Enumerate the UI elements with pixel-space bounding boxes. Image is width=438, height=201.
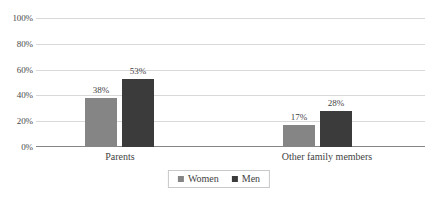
legend-label-women: Women bbox=[188, 173, 219, 184]
bar-parents-women bbox=[85, 98, 117, 147]
y-tick-label-20: 20% bbox=[0, 117, 33, 126]
y-tick-label-60: 60% bbox=[0, 66, 33, 75]
gridline-40 bbox=[36, 95, 425, 96]
gridline-60 bbox=[36, 70, 425, 71]
bar-other-men bbox=[320, 111, 352, 147]
legend-label-men: Men bbox=[242, 173, 260, 184]
bar-other-women bbox=[283, 125, 315, 147]
y-tick-label-100: 100% bbox=[0, 14, 33, 23]
bar-chart: 100% 80% 60% 40% 20% 0% 38% 53% 17% 28% … bbox=[0, 0, 438, 201]
value-label-other-women: 17% bbox=[282, 113, 316, 122]
y-tick-label-80: 80% bbox=[0, 40, 33, 49]
legend-item-women[interactable]: Women bbox=[178, 173, 219, 184]
legend-swatch-men-icon bbox=[232, 176, 238, 182]
plot-area: 38% 53% 17% 28% bbox=[36, 18, 425, 147]
gridline-80 bbox=[36, 44, 425, 45]
y-tick-label-40: 40% bbox=[0, 91, 33, 100]
category-label-other-family-members: Other family members bbox=[262, 151, 392, 162]
legend-item-men[interactable]: Men bbox=[232, 173, 260, 184]
legend: Women Men bbox=[168, 170, 270, 188]
value-label-other-men: 28% bbox=[319, 99, 353, 108]
bar-parents-men bbox=[122, 79, 154, 147]
value-label-parents-women: 38% bbox=[84, 86, 118, 95]
y-axis: 100% 80% 60% 40% 20% 0% bbox=[0, 18, 33, 147]
value-label-parents-men: 53% bbox=[121, 67, 155, 76]
legend-swatch-women-icon bbox=[178, 176, 184, 182]
category-label-parents: Parents bbox=[80, 151, 160, 162]
y-tick-label-0: 0% bbox=[0, 143, 33, 152]
gridline-100 bbox=[36, 18, 425, 19]
